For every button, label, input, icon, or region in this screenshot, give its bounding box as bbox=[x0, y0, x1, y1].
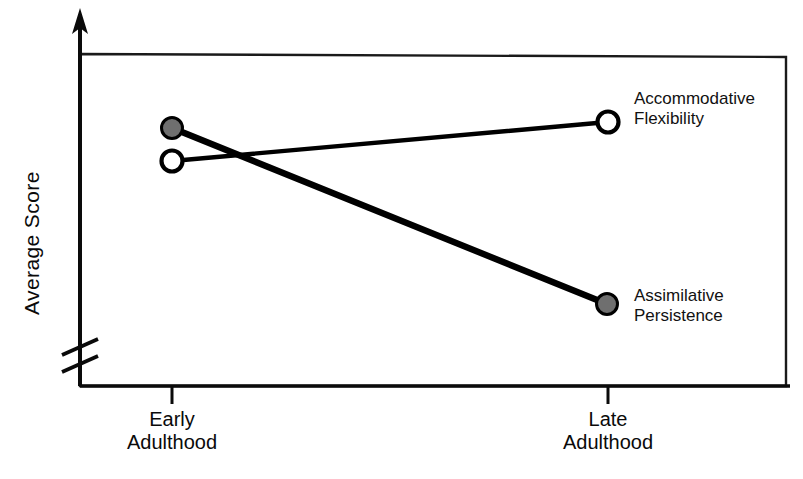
marker-accommodative-flexibility-late bbox=[598, 112, 619, 133]
x-tick-label-late-line2: Adulthood bbox=[528, 431, 688, 454]
x-tick-label-early-line2: Adulthood bbox=[92, 431, 252, 454]
x-axis-ticks bbox=[172, 386, 608, 404]
x-tick-label-late-line1: Late bbox=[528, 408, 688, 431]
marker-accommodative-flexibility-early bbox=[162, 151, 183, 172]
x-tick-label-late-adulthood: Late Adulthood bbox=[528, 408, 688, 454]
series-label-assimilative-line1: Assimilative bbox=[634, 286, 724, 306]
series-label-assimilative-line2: Persistence bbox=[634, 306, 724, 326]
marker-assimilative-persistence-early bbox=[162, 118, 183, 139]
y-axis-title: Average Score bbox=[20, 171, 44, 315]
series-label-accommodative-line1: Accommodative bbox=[634, 89, 755, 109]
y-axis-spine bbox=[72, 8, 88, 386]
x-tick-label-early-line1: Early bbox=[92, 408, 252, 431]
marker-assimilative-persistence-late bbox=[597, 294, 618, 315]
series-label-assimilative-persistence: Assimilative Persistence bbox=[634, 286, 724, 326]
series-line-accommodative-flexibility bbox=[172, 122, 608, 161]
x-tick-label-early-adulthood: Early Adulthood bbox=[92, 408, 252, 454]
figure-container: Average Score Early Adulthood Late Adult… bbox=[0, 0, 803, 479]
series-label-accommodative-flexibility: Accommodative Flexibility bbox=[634, 89, 755, 129]
series-label-accommodative-line2: Flexibility bbox=[634, 109, 755, 129]
